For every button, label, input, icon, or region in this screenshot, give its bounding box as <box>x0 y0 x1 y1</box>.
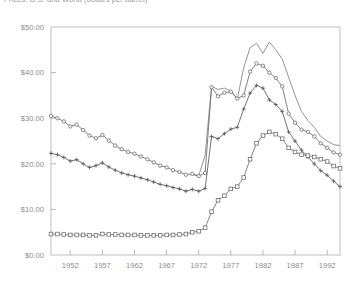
marker-circle <box>242 94 245 97</box>
marker-square <box>81 233 85 237</box>
marker-plus <box>107 165 111 169</box>
marker-circle <box>120 148 123 151</box>
marker-square <box>216 198 220 202</box>
marker-square <box>158 234 162 238</box>
marker-square <box>332 164 336 168</box>
marker-circle <box>139 155 142 158</box>
marker-square <box>126 233 130 237</box>
marker-circle <box>56 117 59 120</box>
marker-plus <box>100 161 104 165</box>
marker-square <box>120 233 124 237</box>
marker-square <box>94 234 98 238</box>
chart-figure: Prices, U.S. and World (dollars per barr… <box>0 0 352 296</box>
marker-circle <box>184 173 187 176</box>
chart-title-clipped: Prices, U.S. and World (dollars per barr… <box>0 0 352 7</box>
marker-plus <box>177 187 181 191</box>
marker-plus <box>184 189 188 193</box>
marker-circle <box>313 135 316 138</box>
marker-circle <box>107 139 110 142</box>
series-circle <box>49 62 341 178</box>
marker-square <box>274 132 278 136</box>
marker-plus <box>203 186 207 190</box>
marker-circle <box>178 170 181 173</box>
marker-square <box>88 234 92 238</box>
marker-square <box>319 157 323 161</box>
marker-square <box>113 233 117 237</box>
y-tick-label: $50.00 <box>21 23 44 32</box>
marker-circle <box>216 95 219 98</box>
marker-square <box>293 150 297 154</box>
y-tick-label: $0.00 <box>25 251 44 260</box>
marker-plus <box>261 86 265 90</box>
marker-circle <box>325 146 328 149</box>
marker-circle <box>293 121 296 124</box>
marker-square <box>152 234 156 238</box>
marker-square <box>75 233 79 237</box>
y-tick-label: $40.00 <box>21 68 44 77</box>
marker-plus <box>132 174 136 178</box>
marker-circle <box>306 130 309 133</box>
marker-square <box>255 141 259 145</box>
marker-square <box>229 187 233 191</box>
marker-plus <box>120 171 124 175</box>
marker-square <box>235 185 239 189</box>
x-tick-label: 1982 <box>254 261 271 270</box>
marker-square <box>280 137 284 141</box>
marker-circle <box>203 171 206 174</box>
marker-plus <box>171 186 175 190</box>
marker-square <box>300 153 304 157</box>
marker-square <box>139 234 143 238</box>
marker-square <box>190 230 194 234</box>
marker-plus <box>242 107 246 111</box>
marker-square <box>171 233 175 237</box>
x-tick-label: 1962 <box>126 261 143 270</box>
marker-plus <box>55 153 59 157</box>
marker-square <box>338 167 342 171</box>
marker-plus <box>210 134 214 138</box>
marker-square <box>146 234 150 238</box>
series-line <box>192 42 340 176</box>
x-tick-label: 1972 <box>190 261 207 270</box>
marker-square <box>313 155 317 159</box>
y-tick-label: $10.00 <box>21 205 44 214</box>
marker-circle <box>62 120 65 123</box>
series-none <box>192 42 340 176</box>
marker-plus <box>75 158 79 162</box>
marker-square <box>56 232 60 236</box>
series-line <box>51 132 340 236</box>
marker-plus <box>145 178 149 182</box>
y-tick-label: $30.00 <box>21 114 44 123</box>
marker-plus <box>197 189 201 193</box>
marker-circle <box>236 97 239 100</box>
marker-square <box>248 157 252 161</box>
marker-circle <box>49 114 52 117</box>
marker-circle <box>75 123 78 126</box>
marker-circle <box>287 112 290 115</box>
marker-circle <box>101 133 104 136</box>
marker-square <box>178 233 182 237</box>
marker-plus <box>165 184 169 188</box>
marker-square <box>68 233 72 237</box>
marker-circle <box>197 174 200 177</box>
marker-plus <box>152 180 156 184</box>
marker-circle <box>223 91 226 94</box>
marker-square <box>325 160 329 164</box>
marker-circle <box>114 144 117 147</box>
marker-square <box>210 210 214 214</box>
marker-circle <box>261 64 264 67</box>
marker-circle <box>274 76 277 79</box>
marker-circle <box>332 151 335 154</box>
marker-circle <box>300 128 303 131</box>
marker-plus <box>81 162 85 166</box>
marker-plus <box>88 165 92 169</box>
marker-plus <box>94 164 98 168</box>
marker-plus <box>235 125 239 129</box>
marker-square <box>203 226 207 230</box>
marker-circle <box>338 153 341 156</box>
marker-circle <box>88 134 91 137</box>
marker-square <box>287 146 291 150</box>
marker-square <box>49 232 53 236</box>
marker-square <box>223 194 227 198</box>
series-square <box>49 130 342 237</box>
marker-circle <box>255 62 258 65</box>
